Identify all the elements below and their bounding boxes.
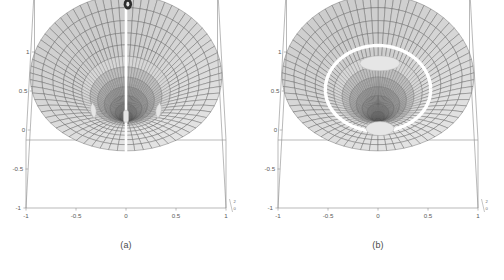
z-tick-label: 0 — [486, 206, 489, 211]
y-tick-label: 1 — [278, 48, 282, 55]
surface-cell — [117, 144, 126, 150]
y-tick-label: 1 — [26, 48, 30, 55]
surface-mesh — [282, 0, 474, 151]
surface-cell — [378, 140, 386, 145]
x-tick-label: -1 — [23, 212, 29, 219]
surface-cell — [369, 144, 378, 150]
x-tick-label: -1 — [275, 212, 281, 219]
x-tick-label: 0.5 — [172, 212, 181, 219]
y-tick-label: 0.5 — [271, 87, 280, 94]
surface-cell — [35, 100, 49, 106]
x-tick-label: 1 — [476, 212, 480, 219]
surface-plot-b: -1-0.500.5110.50-0.5-120 — [252, 0, 504, 238]
surface-cell — [455, 100, 469, 106]
pale-patch-upper — [360, 56, 400, 71]
z-axis-line — [482, 199, 485, 212]
surface-mesh — [30, 0, 222, 161]
x-tick-label: -0.5 — [323, 212, 334, 219]
surface-cell — [371, 8, 378, 21]
y-tick-label: -0.5 — [264, 165, 275, 172]
surface-cell — [378, 0, 386, 8]
y-tick-label: 0.5 — [19, 87, 28, 94]
figure-container: -1-0.500.5110.50-0.5-120 (a) -1-0.500.51… — [0, 0, 504, 280]
y-tick-label: 0 — [274, 126, 278, 133]
z-tick-label: 2 — [486, 199, 489, 204]
panel-caption-a: (a) — [0, 240, 252, 250]
x-tick-label: 0 — [376, 212, 380, 219]
x-tick-label: 1 — [224, 212, 228, 219]
y-tick-label: 0 — [22, 126, 26, 133]
surface-cell — [126, 144, 135, 150]
surface-cell — [371, 135, 378, 140]
plot-panel-b: -1-0.500.5110.50-0.5-120 (b) — [252, 0, 504, 280]
pale-sliver-center — [123, 110, 128, 122]
surface-cell — [32, 93, 45, 100]
surface-plot-a: -1-0.500.5110.50-0.5-120 — [0, 0, 252, 238]
surface-cell — [284, 93, 297, 100]
z-axis-line — [230, 199, 233, 212]
surface-cell — [378, 144, 387, 150]
x-tick-label: 0 — [124, 212, 128, 219]
panel-caption-b: (b) — [252, 240, 504, 250]
y-tick-label: -1 — [15, 204, 21, 211]
surface-cell — [287, 100, 301, 106]
y-tick-label: -0.5 — [12, 165, 23, 172]
top-marker-hole — [126, 2, 129, 7]
surface-cell — [370, 140, 378, 145]
surface-cell — [378, 8, 385, 21]
surface-cell — [203, 100, 217, 106]
z-tick-label: 0 — [234, 206, 237, 211]
surface-cell — [206, 93, 219, 100]
z-tick-label: 2 — [234, 199, 237, 204]
surface-cell — [370, 0, 378, 8]
pale-patch-lower — [366, 122, 394, 136]
y-tick-label: -1 — [267, 204, 273, 211]
x-tick-label: -0.5 — [71, 212, 82, 219]
plot-panel-a: -1-0.500.5110.50-0.5-120 (a) — [0, 0, 252, 280]
x-tick-label: 0.5 — [424, 212, 433, 219]
surface-cell — [458, 93, 471, 100]
